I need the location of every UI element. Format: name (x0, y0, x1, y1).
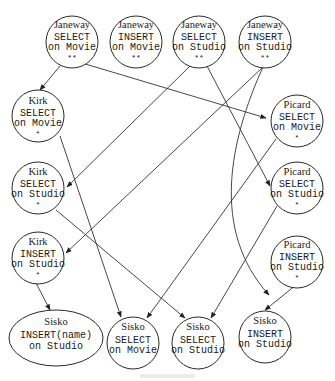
edge-n6-n13 (56, 210, 185, 318)
node-janeway-select-studio: Janeway SELECT on Studio ** (172, 16, 226, 68)
node-user: Janeway (247, 19, 284, 30)
node-user: Janeway (118, 19, 155, 30)
node-target: on Movie (109, 345, 157, 356)
node-target: on Studio (171, 345, 225, 356)
node-user: Kirk (28, 95, 48, 106)
edge-n4-n10 (231, 67, 269, 295)
node-user: Sisko (121, 321, 144, 332)
node-user: Kirk (28, 236, 48, 247)
edge-n7-n11 (36, 283, 50, 310)
node-user: Picard (284, 99, 312, 110)
grant-diagram: Janeway SELECT on Movie ** Janeway INSER… (0, 0, 335, 381)
node-stars: * (36, 200, 41, 209)
node-stars: ** (194, 53, 204, 62)
node-janeway-insert-movie: Janeway INSERT on Movie ** (110, 16, 162, 68)
node-stars: * (36, 129, 41, 138)
caption-smudge (140, 374, 195, 378)
edge-n8-n12 (147, 139, 276, 318)
node-user: Janeway (181, 19, 218, 30)
node-target: on Studio (172, 42, 226, 53)
node-target: on Movie (48, 42, 96, 53)
node-target: on Movie (273, 122, 321, 133)
node-op: INSERT(name) (20, 330, 92, 341)
node-janeway-insert-studio: Janeway INSERT on Studio ** (238, 16, 292, 68)
node-target: on Studio (238, 339, 292, 350)
node-picard-insert-studio: Picard INSERT on Studio * (270, 236, 324, 288)
node-sisko-select-studio: Sisko SELECT on Studio (171, 317, 225, 369)
node-target: on Studio (270, 262, 324, 273)
edge-n9-n13 (211, 206, 277, 318)
edge-n3-n6 (67, 65, 191, 187)
node-sisko-insert-studio: Sisko INSERT on Studio (238, 311, 292, 363)
node-user: Sisko (253, 315, 276, 326)
node-sisko-select-movie: Sisko SELECT on Movie (107, 317, 159, 369)
node-sisko-insert-name-studio: Sisko INSERT(name) on Studio (9, 310, 103, 366)
node-stars: ** (67, 53, 77, 62)
node-target: on Movie (14, 118, 62, 129)
node-user: Kirk (28, 166, 48, 177)
edge-n5-n12 (60, 136, 121, 317)
node-target: on Studio (11, 189, 65, 200)
node-stars: * (295, 133, 300, 142)
node-target: on Studio (270, 189, 324, 200)
edge-n3-n9 (207, 66, 270, 186)
node-user: Janeway (54, 19, 91, 30)
node-user: Picard (284, 239, 312, 250)
edges (36, 63, 296, 318)
node-janeway-select-movie: Janeway SELECT on Movie ** (46, 16, 98, 68)
node-picard-select-studio: Picard SELECT on Studio * (270, 162, 324, 214)
edge-n1-n5 (40, 66, 60, 90)
node-user: Sisko (186, 321, 209, 332)
node-picard-select-movie: Picard SELECT on Movie * (271, 95, 323, 147)
node-target: on Studio (11, 259, 65, 270)
node-stars: * (295, 200, 300, 209)
node-user: Picard (284, 166, 312, 177)
node-stars: ** (131, 53, 141, 62)
node-target: on Movie (112, 42, 160, 53)
node-kirk-select-movie: Kirk SELECT on Movie * (12, 90, 64, 142)
edge-n10-n14 (265, 285, 296, 310)
node-stars: * (295, 273, 300, 282)
node-target: on Studio (238, 42, 292, 53)
node-kirk-select-studio: Kirk SELECT on Studio * (11, 162, 65, 214)
node-stars: ** (260, 53, 270, 62)
node-stars: * (36, 270, 41, 279)
node-kirk-insert-studio: Kirk INSERT on Studio * (11, 232, 65, 284)
node-target: on Studio (29, 341, 83, 352)
node-user: Sisko (44, 316, 67, 327)
